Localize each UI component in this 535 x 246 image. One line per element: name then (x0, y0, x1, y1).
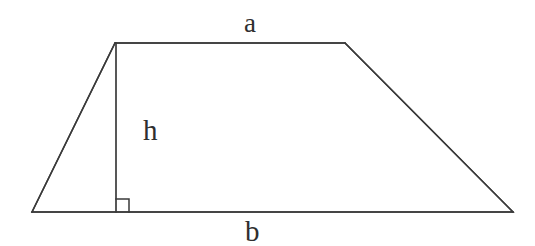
label-bottom-side-b: b (245, 217, 260, 246)
label-height-h: h (143, 116, 158, 145)
trapezoid-figure: a h b (0, 0, 535, 246)
label-top-side-a: a (244, 10, 256, 37)
trapezoid-drawing-canvas (0, 0, 535, 246)
figure-background (0, 0, 535, 246)
